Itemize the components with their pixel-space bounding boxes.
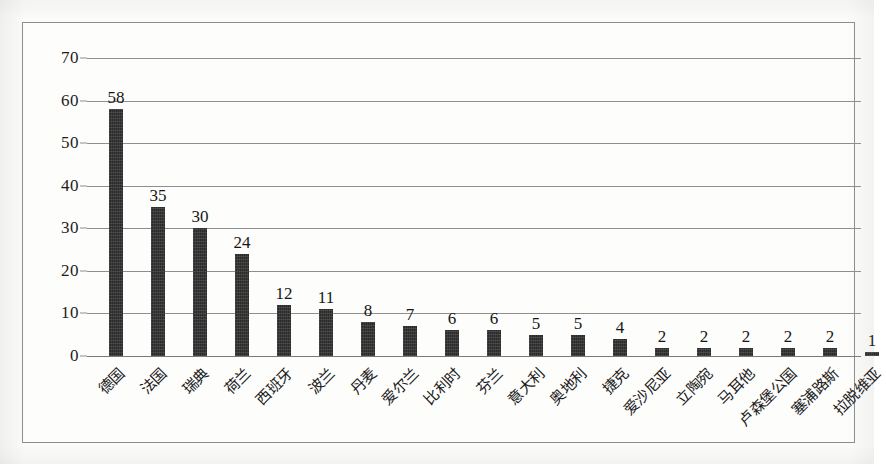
y-axis-tick-mark — [80, 143, 87, 144]
y-axis-tick-mark — [80, 313, 87, 314]
x-axis-category-label-text: 德国 — [93, 362, 129, 398]
bar-value-label: 5 — [532, 315, 541, 332]
bar-group[interactable]: 8丹麦 — [347, 58, 389, 356]
y-axis-tick-mark — [80, 185, 87, 186]
bar[interactable] — [193, 228, 207, 356]
bar-group[interactable]: 2塞浦路斯 — [809, 58, 851, 356]
bar-value-label: 58 — [108, 89, 125, 106]
bar-value-label: 2 — [826, 328, 835, 345]
bar[interactable] — [235, 254, 249, 356]
y-axis-tick-mark — [80, 58, 87, 59]
bar-value-label: 6 — [448, 310, 457, 327]
y-axis-tick-mark — [80, 356, 87, 357]
plot-area: 01020304050607058德国35法国30瑞典24荷兰12西班牙11波兰… — [87, 58, 861, 356]
bar[interactable] — [487, 330, 501, 356]
bar-group[interactable]: 30瑞典 — [179, 58, 221, 356]
bar[interactable] — [403, 326, 417, 356]
bar-group[interactable]: 2卢森堡公国 — [767, 58, 809, 356]
bar-group[interactable]: 2爱沙尼亚 — [641, 58, 683, 356]
bar-value-label: 30 — [192, 208, 209, 225]
x-axis-category-label-text: 法国 — [135, 362, 171, 398]
bar[interactable] — [529, 335, 543, 356]
bar-group[interactable]: 1拉脱维亚 — [851, 58, 886, 356]
bar-value-label: 1 — [868, 332, 877, 349]
bar-group[interactable]: 2立陶宛 — [683, 58, 725, 356]
bar-group[interactable]: 6芬兰 — [473, 58, 515, 356]
bar-value-label: 4 — [616, 319, 625, 336]
y-axis-tick-label: 0 — [70, 346, 79, 366]
y-axis-tick-label: 70 — [61, 48, 79, 68]
bar-group[interactable]: 11波兰 — [305, 58, 347, 356]
bar-value-label: 8 — [364, 302, 373, 319]
bar-group[interactable]: 6比利时 — [431, 58, 473, 356]
y-axis-tick-mark — [80, 100, 87, 101]
y-axis-tick-label: 60 — [61, 91, 79, 111]
x-axis-category-label-text: 波兰 — [303, 362, 339, 398]
bar[interactable] — [361, 322, 375, 356]
bar[interactable] — [151, 207, 165, 356]
bar-value-label: 7 — [406, 306, 415, 323]
bar-value-label: 5 — [574, 315, 583, 332]
bar-group[interactable]: 4捷克 — [599, 58, 641, 356]
bar-value-label: 6 — [490, 310, 499, 327]
bar[interactable] — [571, 335, 585, 356]
x-axis-category-label-text: 瑞典 — [177, 362, 213, 398]
bar[interactable] — [319, 309, 333, 356]
bar-value-label: 2 — [700, 328, 709, 345]
bar-group[interactable]: 12西班牙 — [263, 58, 305, 356]
bar-group[interactable]: 7爱尔兰 — [389, 58, 431, 356]
bar-value-label: 24 — [234, 234, 251, 251]
y-axis-tick-mark — [80, 228, 87, 229]
y-axis-tick-label: 30 — [61, 218, 79, 238]
bar-group[interactable]: 24荷兰 — [221, 58, 263, 356]
bar[interactable] — [109, 109, 123, 356]
bar-group[interactable]: 5奥地利 — [557, 58, 599, 356]
bar-value-label: 2 — [658, 328, 667, 345]
bar-value-label: 2 — [784, 328, 793, 345]
y-axis-tick-label: 40 — [61, 176, 79, 196]
bar-value-label: 35 — [150, 187, 167, 204]
bar-group[interactable]: 58德国 — [95, 58, 137, 356]
y-axis-tick-label: 10 — [61, 303, 79, 323]
bar-group[interactable]: 5意大利 — [515, 58, 557, 356]
bar-group[interactable]: 2马耳他 — [725, 58, 767, 356]
bar-group[interactable]: 35法国 — [137, 58, 179, 356]
bar[interactable] — [277, 305, 291, 356]
chart-frame: 01020304050607058德国35法国30瑞典24荷兰12西班牙11波兰… — [22, 22, 855, 443]
bar[interactable] — [445, 330, 459, 356]
y-axis-tick-label: 50 — [61, 133, 79, 153]
bar-value-label: 12 — [276, 285, 293, 302]
bar-value-label: 11 — [318, 289, 334, 306]
y-axis-tick-label: 20 — [61, 261, 79, 281]
bar-value-label: 2 — [742, 328, 751, 345]
y-axis-tick-mark — [80, 270, 87, 271]
